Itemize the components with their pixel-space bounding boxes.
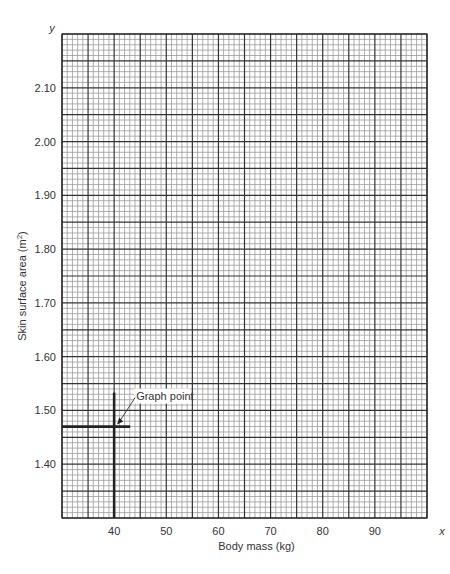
graph-point-label: Graph point xyxy=(136,390,193,402)
graph-point-marker xyxy=(113,425,116,428)
y-tick-label: 1.50 xyxy=(35,404,56,416)
y-tick-label: 2.00 xyxy=(35,136,56,148)
y-axis-title-end: ) xyxy=(16,231,28,235)
y-axis-title: Skin surface area (m2) xyxy=(15,231,28,341)
x-axis-title: Body mass (kg) xyxy=(218,540,294,552)
y-tick-label: 1.40 xyxy=(35,458,56,470)
grid-major xyxy=(62,34,427,518)
y-tick-label: 2.10 xyxy=(35,82,56,94)
x-tick-label: 80 xyxy=(317,525,329,537)
y-axis-title-base: Skin surface area (m xyxy=(16,239,28,340)
x-tick-labels: 405060708090 xyxy=(108,525,381,537)
x-tick-label: 60 xyxy=(212,525,224,537)
y-tick-labels: 1.401.501.601.701.801.902.002.10 xyxy=(35,82,56,470)
y-tick-label: 1.70 xyxy=(35,297,56,309)
x-tick-label: 50 xyxy=(160,525,172,537)
x-axis-letter: x xyxy=(438,525,445,537)
chart: 405060708090 1.401.501.601.701.801.902.0… xyxy=(0,0,450,574)
x-tick-label: 40 xyxy=(108,525,120,537)
y-axis-letter: y xyxy=(48,22,56,34)
x-tick-label: 90 xyxy=(369,525,381,537)
y-tick-label: 1.90 xyxy=(35,189,56,201)
y-tick-label: 1.80 xyxy=(35,243,56,255)
x-tick-label: 70 xyxy=(264,525,276,537)
y-tick-label: 1.60 xyxy=(35,351,56,363)
